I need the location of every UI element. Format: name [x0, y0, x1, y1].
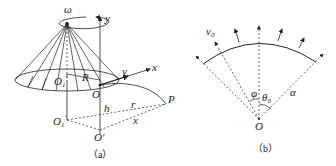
y-axis-label: y: [104, 12, 110, 24]
ground-dashed-lines: [67, 104, 166, 130]
velocity-label: v: [122, 65, 127, 77]
alpha-label: α: [290, 86, 296, 98]
caption-b: （b）: [253, 143, 278, 154]
x-axis-label: x: [151, 61, 157, 73]
phi-label: φ: [251, 87, 257, 99]
theta0-label: θ0: [262, 91, 271, 105]
o-label: O: [92, 88, 100, 100]
p-label: P: [167, 93, 175, 105]
caption-a: （a）: [88, 149, 112, 160]
o-label-b: O: [255, 120, 263, 132]
r-label: r: [131, 98, 136, 110]
phi-angle-arc: [250, 99, 259, 101]
radial-dashed-lines: [196, 26, 323, 119]
o1-prime-label: O1′: [53, 114, 66, 129]
x-distance-label: x: [132, 114, 138, 126]
h-label: h: [104, 102, 110, 114]
arc: [203, 43, 316, 64]
cone-lines: [16, 24, 119, 91]
figure-canvas: ω y x v O1 R O h r P O1′ x O′ （a）: [0, 0, 336, 166]
figure-a: ω y x v O1 R O h r P O1′ x O′ （a）: [15, 3, 175, 160]
r-radius-label: R: [81, 71, 89, 83]
omega-label: ω: [64, 3, 72, 15]
o1-label: O1: [54, 75, 65, 89]
v0-label: v0: [206, 25, 215, 39]
o-prime-label: O′: [94, 131, 105, 143]
figure-b: v0 φ θ0 α O （b）: [196, 25, 323, 154]
